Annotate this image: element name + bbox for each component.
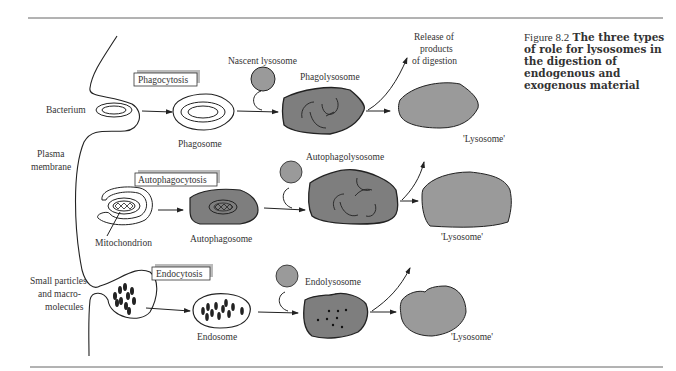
nascent-lysosome (251, 67, 275, 91)
process-label: Endocytosis (156, 269, 203, 279)
plasma-membrane-label-2: membrane (31, 162, 71, 172)
nascent-lysosome (280, 161, 302, 183)
input-label-2: and macro- (38, 289, 81, 299)
mitochondrion-label: Mitochondrion (95, 238, 152, 248)
figure-caption: Figure 8.2 The three types of role for l… (524, 31, 674, 91)
release-label-3: of digestion (412, 56, 457, 66)
plasma-membrane-label-1: Plasma (37, 149, 65, 159)
endolysosome-label: Endolysosome (305, 277, 361, 287)
lysosome-label: 'Lysosome' (463, 134, 505, 144)
endolysosome (304, 293, 368, 338)
process-label: Autophagocytosis (138, 175, 207, 185)
lysosome-result (422, 172, 511, 227)
lysosome-label: 'Lysosome' (441, 232, 483, 242)
figure-number: Figure 8.2 (524, 31, 569, 43)
row-endocytosis: Endocytosis Small particles and macro- m… (30, 264, 493, 342)
input-label-3: molecules (45, 302, 84, 312)
release-label-1: Release of (414, 32, 455, 42)
lysosome-result (399, 83, 479, 128)
nascent-lysosome (276, 265, 298, 287)
phagolysosome-label: Phagolysosome (300, 72, 360, 82)
row-autophagocytosis: Autophagocytosis Mitochondrion Autophago… (95, 152, 511, 248)
autophagosome (190, 189, 258, 224)
lysosome-result (400, 286, 466, 336)
endosome-label: Endosome (197, 332, 237, 342)
bacterium-label: Bacterium (46, 105, 86, 115)
lysosome-label: 'Lysosome' (451, 332, 493, 342)
phagosome-label: Phagosome (178, 139, 222, 149)
release-label-2: products (420, 44, 453, 54)
input-label-1: Small particles (30, 276, 87, 286)
autophagosome-label: Autophagosome (190, 234, 252, 244)
nascent-lysosome-label: Nascent lysosome (228, 56, 297, 66)
process-label: Phagocytosis (138, 75, 188, 85)
autophagolysosome-label: Autophagolysosome (306, 152, 384, 162)
